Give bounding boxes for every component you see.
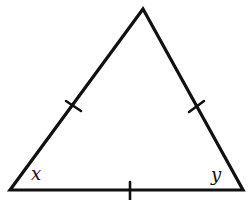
triangle-outline — [10, 9, 243, 190]
triangle-diagram: x y — [0, 0, 250, 200]
angle-label-x: x — [31, 165, 41, 183]
angle-label-y: y — [211, 166, 221, 184]
